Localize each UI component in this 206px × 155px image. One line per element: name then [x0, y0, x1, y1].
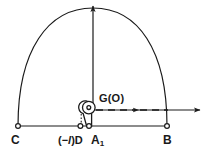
label-point-b: B [163, 134, 172, 146]
label-point-d: (−l)D [58, 135, 83, 146]
geometric-diagram-svg [0, 0, 206, 155]
point-marker-d [78, 124, 83, 129]
point-marker-c [16, 124, 21, 129]
label-point-d-prefix: (− [58, 134, 68, 146]
point-marker-b [165, 124, 170, 129]
pivot-center-dot-icon [87, 106, 91, 110]
label-point-c: C [11, 134, 20, 146]
label-point-a1: A1 [91, 134, 104, 148]
figure-container: C (−l)D A1 B G(O) [0, 0, 206, 155]
label-point-a1-subscript: 1 [100, 139, 104, 148]
point-marker-a1 [87, 124, 92, 129]
label-point-a1-base: A [91, 133, 100, 147]
label-pivot-g: G(O) [99, 93, 124, 104]
label-point-d-suffix: )D [71, 134, 83, 146]
